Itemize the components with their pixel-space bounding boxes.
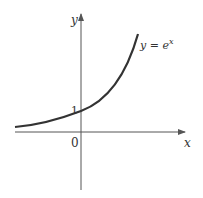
intercept-label: 1 [71,105,78,116]
curve-label-exp: x [169,37,174,46]
origin-label: 0 [71,137,79,149]
y-axis-label: y [71,14,78,26]
curve-label: y = ex [140,38,173,51]
graph-canvas [0,0,203,198]
x-axis-label: x [184,137,191,149]
curve-label-eq: = [146,39,162,52]
